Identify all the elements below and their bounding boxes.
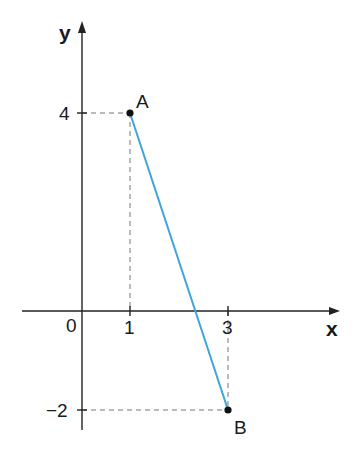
point-a-label: A bbox=[136, 92, 149, 111]
y-tick-label-4: 4 bbox=[59, 104, 70, 123]
x-tick-label-1: 1 bbox=[124, 318, 135, 337]
y-tick-label-neg2: −2 bbox=[46, 401, 68, 420]
x-axis-label: x bbox=[326, 318, 338, 339]
x-tick-label-3: 3 bbox=[222, 318, 233, 337]
point-b-label: B bbox=[234, 418, 247, 437]
origin-label: 0 bbox=[66, 316, 77, 335]
y-axis-arrow-icon bbox=[78, 21, 86, 33]
point-b bbox=[224, 406, 231, 413]
x-axis-arrow-icon bbox=[329, 307, 340, 315]
y-axis-label: y bbox=[59, 22, 71, 43]
point-a bbox=[126, 109, 133, 116]
guide-lines bbox=[82, 113, 228, 410]
coordinate-plot bbox=[0, 0, 358, 458]
segment-ab bbox=[130, 113, 228, 410]
